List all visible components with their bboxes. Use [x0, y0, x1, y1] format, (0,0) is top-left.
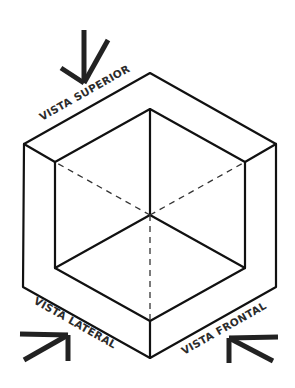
label-vista-lateral: VISTA LATERAL — [32, 294, 119, 350]
isometric-diagram: VISTA SUPERIOR VISTA LATERAL VISTA FRONT… — [0, 0, 295, 388]
visible-edges — [55, 109, 245, 268]
left-view-arrow-icon — [20, 334, 68, 361]
front-view-arrow-icon — [229, 337, 278, 363]
label-vista-frontal: VISTA FRONTAL — [179, 299, 268, 357]
